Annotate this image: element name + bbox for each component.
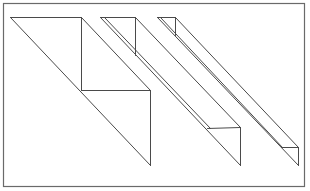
wide-strip — [11, 18, 151, 166]
medium-strip — [101, 18, 241, 166]
edge-line — [101, 18, 241, 166]
folded-strips-diagram — [0, 0, 310, 191]
edge-line — [105, 18, 211, 129]
edge-line — [136, 18, 241, 128]
edge-line — [11, 18, 151, 166]
edge-line — [82, 18, 151, 91]
edge-line — [208, 128, 241, 129]
edge-line — [158, 18, 299, 166]
narrow-strip — [158, 18, 299, 166]
figure-frame — [4, 4, 305, 187]
